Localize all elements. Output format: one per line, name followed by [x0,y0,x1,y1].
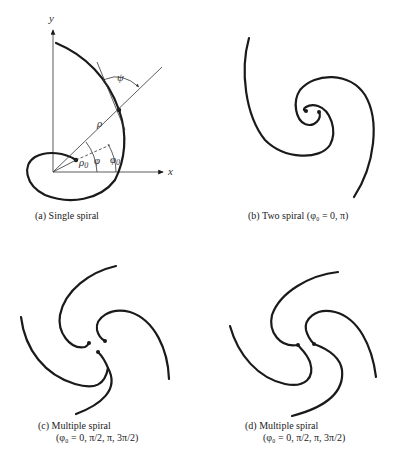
spiral-dot-1 [304,109,308,113]
caption-panel-a: (a) Single spiral [35,210,99,222]
spiral-arm-1 [245,38,334,156]
caption-panel-b: (b) Two spiral (φ₀ = 0, π) [248,210,348,222]
caption-c-line1: (c) Multiple spiral [38,420,111,431]
single-spiral-curve [27,43,124,200]
y-axis-label: y [48,12,54,24]
caption-b-line1: (b) Two spiral (φ₀ = 0, π) [248,210,348,221]
rho0-label: ρ0 [78,156,88,170]
panel-b-two-spiral [245,38,374,197]
x-axis-label: x [167,165,173,177]
phi0-label: φ0 [110,153,120,167]
panel-d-multiple-spiral [230,272,376,416]
spiral-arm-c1 [60,266,116,347]
panel-a-single-spiral: y x ψ ρ ρ0 φ φ0 [27,12,173,200]
spiral-arm-2 [296,77,374,197]
panel-c-multiple-spiral [21,266,169,414]
rho0-line [53,160,76,172]
spiral-dot-d2 [312,342,316,346]
spiral-figure: y x ψ ρ ρ0 φ φ0 [0,0,397,454]
caption-panel-c: (c) Multiple spiral (φ₀ = 0, π/2, π, 3π/… [38,420,138,444]
caption-c-line2: (φ₀ = 0, π/2, π, 3π/2) [38,432,138,444]
caption-d-line2: (φ₀ = 0, π/2, π, 3π/2) [245,432,345,444]
spiral-dot-c2 [103,339,107,343]
caption-d-line1: (d) Multiple spiral [245,420,318,431]
caption-a-line1: (a) Single spiral [35,210,99,221]
spiral-dot-c3 [96,350,100,354]
phi-label: φ [94,154,100,166]
rho-label: ρ [96,117,102,129]
radial-line-rho [53,67,162,172]
spiral-arm-c4 [21,317,108,386]
spiral-arm-c3 [76,352,112,414]
psi-label: ψ [117,71,124,83]
spiral-dot-c1 [87,341,91,345]
spiral-dot-d1 [296,343,300,347]
spiral-arm-d3 [292,344,342,416]
caption-panel-d: (d) Multiple spiral (φ₀ = 0, π/2, π, 3π/… [245,420,345,444]
spiral-arm-d1 [271,272,338,345]
spiral-arm-d4 [230,326,311,385]
spiral-dot-2 [317,110,321,114]
